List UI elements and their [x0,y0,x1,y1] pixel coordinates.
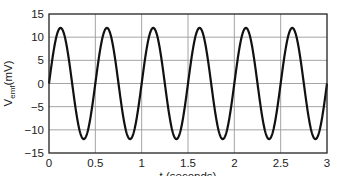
y-tick-label: 15 [31,8,44,20]
x-tick-label: 1 [138,157,144,169]
y-axis-label: Vemf(mV) [2,60,17,106]
x-tick-label: 0 [46,157,52,169]
y-tick-label: 0 [38,78,44,90]
x-tick-label: 3 [324,157,330,169]
x-axis-label: t (seconds) [160,170,217,176]
x-tick-label: 1.5 [180,157,196,169]
x-tick-label: 2.5 [273,157,289,169]
y-tick-label: −15 [24,147,44,159]
y-tick-label: 10 [31,31,44,43]
y-tick-label: −10 [24,124,44,136]
y-tick-label: 5 [38,54,44,66]
chart: 00.511.522.53 −15−10−5051015 t (seconds)… [0,0,341,176]
y-axis-ticks: −15−10−5051015 [24,8,44,159]
y-axis-label-unit: (mV) [2,60,14,85]
x-tick-label: 0.5 [87,157,103,169]
x-tick-label: 2 [231,157,237,169]
x-axis-ticks: 00.511.522.53 [46,157,330,169]
y-tick-label: −5 [31,101,44,113]
y-axis-label-subscript: emf [8,85,17,99]
